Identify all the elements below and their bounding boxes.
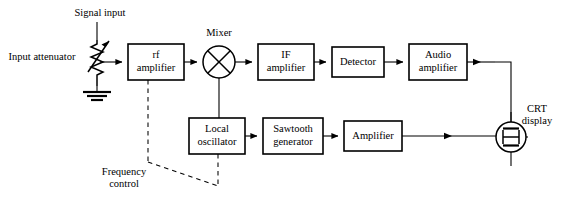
block-local-oscillator: Local oscillator <box>189 118 245 154</box>
block-label-audio-amplifier-line2: amplifier <box>419 62 458 73</box>
block-label-local-oscillator-line2: oscillator <box>197 136 237 147</box>
block-label-local-oscillator-line1: Local <box>205 123 229 134</box>
label-input-attenuator: Input attenuator <box>9 51 76 62</box>
block-diagram-canvas: rf amplifier IF amplifier <box>0 0 565 206</box>
label-mixer: Mixer <box>206 27 232 38</box>
block-label-rf-amplifier-line2: amplifier <box>137 62 176 73</box>
label-frequency-control-line1: Frequency <box>102 166 147 177</box>
amplifier-to-crt-wire <box>402 133 496 139</box>
variable-resistor-symbol <box>88 40 109 86</box>
ground-symbol <box>83 86 111 100</box>
frequency-control-link-dashed <box>148 162 218 186</box>
block-label-rf-amplifier-line1: rf <box>153 49 160 60</box>
block-label-amplifier: Amplifier <box>352 130 394 141</box>
block-label-if-amplifier-line1: IF <box>281 49 290 60</box>
label-crt-display-line1: CRT <box>527 103 547 114</box>
label-signal-input: Signal input <box>74 7 125 18</box>
block-audio-amplifier: Audio amplifier <box>409 44 467 80</box>
label-crt-display-line2: display <box>522 115 553 126</box>
block-label-detector: Detector <box>340 56 377 67</box>
block-if-amplifier: IF amplifier <box>258 44 314 80</box>
block-amplifier: Amplifier <box>344 121 402 151</box>
block-label-sawtooth-generator-line1: Sawtooth <box>273 123 313 134</box>
block-label-audio-amplifier-line1: Audio <box>425 49 451 60</box>
block-detector: Detector <box>332 47 384 77</box>
block-label-sawtooth-generator-line2: generator <box>273 136 313 147</box>
block-sawtooth-generator: Sawtooth generator <box>263 118 323 154</box>
block-diagram-svg: rf amplifier IF amplifier <box>0 0 565 206</box>
audio-amplifier-to-crt-wire <box>467 59 511 122</box>
block-label-if-amplifier-line2: amplifier <box>267 62 306 73</box>
label-frequency-control-line2: control <box>109 178 139 189</box>
mixer-symbol <box>203 46 235 78</box>
block-rf-amplifier: rf amplifier <box>128 44 184 80</box>
